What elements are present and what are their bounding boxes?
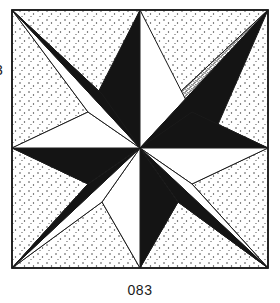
- figure-page: 3: [0, 0, 280, 303]
- figure-caption: 083: [0, 277, 280, 303]
- star-diagram-svg: [0, 0, 280, 277]
- figure-image: [0, 0, 280, 277]
